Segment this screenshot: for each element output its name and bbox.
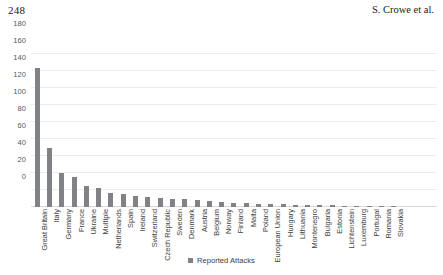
bar[interactable]	[195, 200, 200, 207]
bar-slot	[154, 54, 166, 207]
bar[interactable]	[182, 199, 187, 207]
bar-slot	[252, 54, 264, 207]
y-axis-tick-label: 60	[18, 122, 26, 130]
bar-slot	[203, 54, 215, 207]
bar-slot	[166, 54, 178, 207]
bar[interactable]	[207, 201, 212, 207]
bar[interactable]	[158, 198, 163, 207]
bar[interactable]	[317, 205, 322, 207]
y-axis-tick-label: 120	[13, 71, 26, 79]
y-axis-tick-label: 180	[13, 20, 26, 28]
bar-slot	[129, 54, 141, 207]
bar[interactable]	[268, 204, 273, 207]
bar[interactable]	[35, 68, 40, 207]
x-axis-tick-label: Slovakia	[397, 209, 405, 237]
bar[interactable]	[354, 206, 359, 207]
bar-slot	[265, 54, 277, 207]
bar[interactable]	[330, 205, 335, 207]
bar[interactable]	[121, 194, 126, 207]
bar-slot	[388, 54, 400, 207]
bar-slot	[326, 54, 338, 207]
bar-slot	[277, 54, 289, 207]
bar[interactable]	[72, 177, 77, 207]
bar-slot	[338, 54, 350, 207]
bar[interactable]	[305, 205, 310, 207]
y-axis-tick-label: 20	[18, 156, 26, 164]
bar-series	[31, 54, 437, 207]
bar[interactable]	[170, 199, 175, 208]
bar-slot	[191, 54, 203, 207]
page-header: 248 S. Crowe et al.	[0, 4, 443, 18]
bar[interactable]	[342, 206, 347, 207]
bar-slot	[31, 54, 43, 207]
legend-item[interactable]: Reported Attacks	[188, 256, 255, 265]
running-title: S. Crowe et al.	[372, 4, 434, 15]
bar[interactable]	[219, 202, 224, 207]
bar-slot	[43, 54, 55, 207]
bar[interactable]	[281, 204, 286, 207]
bar-slot	[240, 54, 252, 207]
page-number: 248	[8, 4, 25, 16]
bar[interactable]	[59, 173, 64, 207]
plot-area	[31, 54, 437, 207]
bar-slot	[351, 54, 363, 207]
y-axis-tick-label: 80	[18, 105, 26, 113]
bar[interactable]	[133, 196, 138, 207]
bar-slot	[179, 54, 191, 207]
bar[interactable]	[391, 206, 396, 207]
bar-slot	[68, 54, 80, 207]
bar-slot	[117, 54, 129, 207]
bar-slot	[56, 54, 68, 207]
bar-chart-figure: 020406080100120140160180 Great BritainIt…	[0, 24, 443, 275]
bar-slot	[142, 54, 154, 207]
bar[interactable]	[379, 206, 384, 207]
legend-label: Reported Attacks	[197, 256, 255, 265]
bar[interactable]	[293, 205, 298, 207]
bar-slot	[314, 54, 326, 207]
y-axis-tick-label: 0	[22, 173, 26, 181]
legend-swatch-icon	[188, 258, 193, 263]
bar-slot	[215, 54, 227, 207]
y-axis-tick-label: 160	[13, 37, 26, 45]
bar-slot	[80, 54, 92, 207]
bar[interactable]	[244, 203, 249, 207]
bar[interactable]	[145, 197, 150, 207]
bar[interactable]	[231, 203, 236, 207]
bar-slot	[105, 54, 117, 207]
bar-slot	[289, 54, 301, 207]
bar-slot	[228, 54, 240, 207]
bar-slot	[375, 54, 387, 207]
y-axis: 020406080100120140160180	[0, 24, 31, 237]
bar-slot	[92, 54, 104, 207]
bar[interactable]	[108, 193, 113, 207]
y-axis-tick-label: 100	[13, 88, 26, 96]
bar[interactable]	[84, 186, 89, 207]
y-axis-tick-label: 40	[18, 139, 26, 147]
bar[interactable]	[96, 188, 101, 207]
bar-slot	[363, 54, 375, 207]
bar-slot	[302, 54, 314, 207]
y-axis-tick-label: 140	[13, 54, 26, 62]
bar[interactable]	[367, 206, 372, 207]
bar[interactable]	[256, 204, 261, 207]
chart-legend: Reported Attacks	[0, 256, 443, 265]
bar[interactable]	[47, 148, 52, 208]
